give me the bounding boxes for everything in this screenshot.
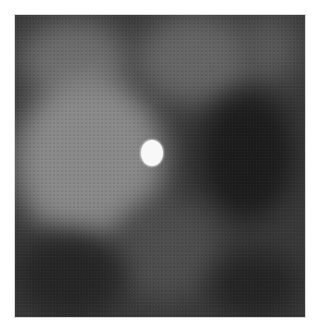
image-grain	[15, 15, 305, 317]
calcification-spot	[141, 140, 163, 166]
tissue-image	[15, 15, 305, 317]
